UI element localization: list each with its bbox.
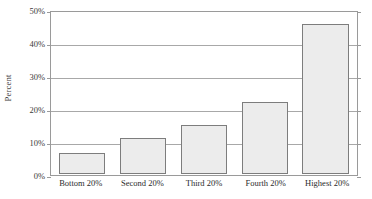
- x-axis-tick-labels: Bottom 20%Second 20%Third 20%Fourth 20%H…: [50, 178, 358, 198]
- bar-slot: [174, 13, 235, 174]
- y-axis-tick-label: 10%: [29, 138, 45, 148]
- axis-tick-mark: [357, 144, 361, 145]
- x-axis-tick-label: Fourth 20%: [235, 178, 297, 188]
- bar-chart-figure: Percent 0%10%20%30%40%50% Bottom 20%Seco…: [0, 0, 372, 199]
- bar-slot: [52, 13, 113, 174]
- bars-container: [52, 13, 356, 174]
- y-axis-tick-label: 50%: [29, 6, 45, 16]
- axis-tick-mark: [47, 45, 51, 46]
- axis-tick-mark: [47, 144, 51, 145]
- bar: [242, 102, 288, 174]
- bar: [120, 138, 166, 174]
- bar: [59, 153, 105, 174]
- x-axis-tick-label: Second 20%: [112, 178, 174, 188]
- axis-tick-mark: [47, 111, 51, 112]
- x-axis-tick-label: Bottom 20%: [50, 178, 112, 188]
- axis-tick-mark: [357, 78, 361, 79]
- y-axis-tick-label: 0%: [34, 171, 45, 181]
- plot-area: [50, 11, 358, 176]
- bar: [181, 125, 227, 174]
- axis-tick-mark: [47, 78, 51, 79]
- y-axis-tick-label: 30%: [29, 72, 45, 82]
- bar-slot: [295, 13, 356, 174]
- bar: [302, 24, 348, 174]
- axis-tick-mark: [47, 12, 51, 13]
- y-axis-title-label: Percent: [3, 75, 13, 102]
- axis-tick-mark: [357, 12, 361, 13]
- axis-tick-mark: [357, 111, 361, 112]
- x-axis-tick-label: Highest 20%: [296, 178, 358, 188]
- bar-slot: [113, 13, 174, 174]
- x-axis-tick-label: Third 20%: [173, 178, 235, 188]
- axis-tick-mark: [357, 45, 361, 46]
- y-axis-tick-labels: 0%10%20%30%40%50%: [16, 0, 48, 176]
- y-axis-tick-label: 20%: [29, 105, 45, 115]
- bar-slot: [234, 13, 295, 174]
- y-axis-tick-label: 40%: [29, 39, 45, 49]
- y-axis-title: Percent: [0, 0, 16, 176]
